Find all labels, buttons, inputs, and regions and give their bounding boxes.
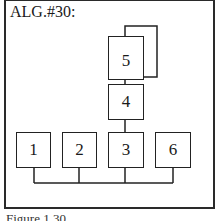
node-4-label: 4 xyxy=(122,92,131,112)
node-5: 5 xyxy=(108,36,144,80)
node-4: 4 xyxy=(108,84,144,120)
node-1: 1 xyxy=(16,132,51,168)
node-3-label: 3 xyxy=(122,140,131,160)
node-6-label: 6 xyxy=(169,140,178,160)
figure-caption: Figure 1.30 xyxy=(6,212,66,221)
node-2-label: 2 xyxy=(75,140,84,160)
node-3: 3 xyxy=(108,132,144,168)
node-6: 6 xyxy=(155,132,191,168)
node-2: 2 xyxy=(62,132,97,168)
node-5-label: 5 xyxy=(122,51,131,71)
node-1-label: 1 xyxy=(29,140,38,160)
